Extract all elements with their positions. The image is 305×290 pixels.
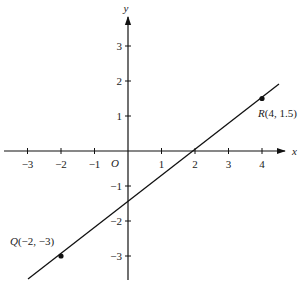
y-tick-label: −1 [110, 180, 122, 192]
y-tick-label: 1 [117, 110, 123, 122]
x-axis-label: x [291, 145, 297, 157]
x-tick-label: −1 [89, 158, 101, 170]
x-tick-label: 1 [159, 158, 165, 170]
point-r-label: R(4, 1.5) [257, 107, 297, 120]
point-q-label: Q(−2, −3) [10, 235, 55, 248]
point-r [259, 96, 264, 101]
y-tick-label: −3 [110, 250, 122, 262]
x-tick-label: −3 [22, 158, 34, 170]
y-axis-label: y [123, 2, 129, 14]
origin-label: O [111, 157, 119, 169]
y-tick-label: 3 [117, 40, 123, 52]
point-q [58, 253, 63, 258]
line-qr [28, 84, 279, 279]
x-tick-labels: −3 −2 −1 1 2 3 4 [22, 158, 266, 170]
chart-svg: −3 −2 −1 1 2 3 4 3 2 1 −1 −2 −3 y x O Q(… [0, 0, 305, 290]
y-tick-label: −2 [110, 215, 122, 227]
x-tick-label: 3 [226, 158, 232, 170]
x-tick-label: 4 [259, 158, 265, 170]
x-tick-label: −2 [55, 158, 67, 170]
coordinate-plane-figure: −3 −2 −1 1 2 3 4 3 2 1 −1 −2 −3 y x O Q(… [0, 0, 305, 290]
x-tick-label: 2 [192, 158, 198, 170]
y-tick-label: 2 [117, 75, 123, 87]
